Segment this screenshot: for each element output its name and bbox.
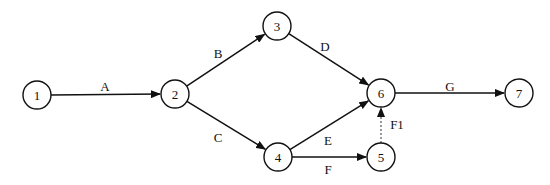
node-label: 1: [34, 88, 41, 103]
edge-label: F: [324, 162, 331, 177]
edge-label: A: [100, 79, 110, 94]
node-label: 6: [378, 86, 385, 101]
node-6: 6: [367, 79, 395, 107]
edge-b: B: [187, 34, 265, 86]
node-3: 3: [263, 12, 291, 40]
node-5: 5: [367, 143, 395, 171]
edge-label: G: [445, 79, 454, 94]
edge-e: E: [290, 101, 368, 150]
node-7: 7: [505, 79, 533, 107]
node-1: 1: [23, 81, 51, 109]
edge-label: D: [320, 39, 329, 54]
edge-f: F: [292, 157, 366, 177]
arrow-icon: [187, 101, 265, 149]
edge-d: D: [289, 34, 369, 85]
edge-label: B: [214, 46, 223, 61]
node-label: 7: [516, 86, 523, 101]
node-label: 3: [274, 19, 281, 34]
arrow-icon: [51, 94, 160, 95]
edge-c: C: [187, 101, 265, 149]
edge-g: G: [395, 79, 504, 94]
arrow-icon: [187, 34, 265, 86]
edge-label: C: [214, 130, 223, 145]
edge-a: A: [51, 79, 160, 95]
node-label: 2: [172, 87, 179, 102]
network-diagram: ABCDEFF1G 1234567: [0, 0, 550, 185]
edge-f1: F1: [381, 108, 404, 143]
node-4: 4: [264, 143, 292, 171]
node-label: 5: [378, 150, 385, 165]
edge-label: E: [324, 133, 332, 148]
edge-label: F1: [390, 117, 404, 132]
node-label: 4: [275, 150, 282, 165]
node-2: 2: [161, 80, 189, 108]
